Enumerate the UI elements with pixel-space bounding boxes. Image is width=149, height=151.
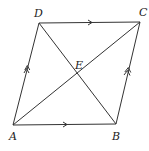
vertex-label-e: E [75, 60, 83, 71]
vertex-label-b: B [112, 131, 120, 142]
diagonal-db [39, 23, 116, 124]
vertex-label-a: A [9, 131, 17, 142]
edge-ab [13, 124, 116, 125]
vertex-label-c: C [139, 7, 147, 18]
edge-ad [13, 23, 39, 125]
edge-dc [39, 22, 140, 23]
diagonal-ac [13, 22, 140, 125]
parallelogram-diagram: D C E A B [0, 0, 149, 151]
edge-bc [116, 22, 140, 124]
diagram-canvas [0, 0, 149, 151]
vertex-label-d: D [34, 8, 43, 19]
